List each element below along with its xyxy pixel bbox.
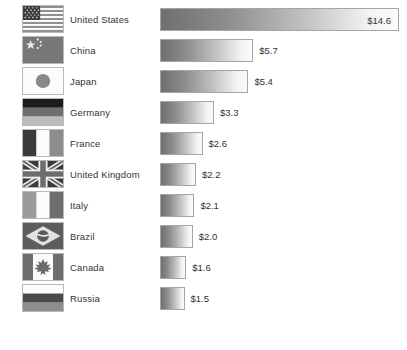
bar-group: $1.6 (160, 256, 211, 279)
gdp-bar-chart: United States$14.6 China$5.7 Japan$5.4 G… (0, 0, 407, 350)
bar-value-label: $5.4 (254, 70, 273, 93)
bar-value-label: $14.6 (367, 9, 391, 32)
bar-value-label: $1.6 (192, 256, 211, 279)
country-label: United Kingdom (70, 159, 140, 190)
bar-group: $2.2 (160, 163, 221, 186)
bar-group: $2.6 (160, 132, 227, 155)
bar-value-label: $2.6 (209, 132, 228, 155)
flag-united-states-icon (22, 5, 64, 33)
bar-group: $1.5 (160, 287, 209, 310)
country-label: Italy (70, 190, 88, 221)
flag-japan-icon (22, 67, 64, 95)
country-label: United States (70, 4, 129, 35)
chart-row: Russia$1.5 (0, 283, 407, 314)
chart-row: Italy$2.1 (0, 190, 407, 221)
bar-group: $5.7 (160, 39, 278, 62)
chart-row: Germany$3.3 (0, 97, 407, 128)
value-bar (160, 287, 185, 310)
flag-germany-icon (22, 98, 64, 126)
flag-france-icon (22, 129, 64, 157)
bar-group: $2.1 (160, 194, 219, 217)
flag-russia-icon (22, 284, 64, 312)
country-label: Germany (70, 97, 110, 128)
bar-group: $3.3 (160, 101, 239, 124)
bar-value-label: $2.1 (200, 194, 219, 217)
flag-canada-icon (22, 253, 64, 281)
flag-italy-icon (22, 191, 64, 219)
flag-united-kingdom-icon (22, 160, 64, 188)
chart-row: Japan$5.4 (0, 66, 407, 97)
country-label: Brazil (70, 221, 95, 252)
value-bar: $14.6 (160, 8, 399, 31)
bar-value-label: $2.2 (202, 163, 221, 186)
value-bar (160, 132, 203, 155)
chart-row: Canada$1.6 (0, 252, 407, 283)
chart-row: France$2.6 (0, 128, 407, 159)
bar-value-label: $2.0 (199, 225, 218, 248)
country-label: Japan (70, 66, 97, 97)
country-label: France (70, 128, 100, 159)
value-bar (160, 194, 194, 217)
flag-brazil-icon (22, 222, 64, 250)
value-bar (160, 101, 214, 124)
flag-china-icon (22, 36, 64, 64)
chart-row: Brazil$2.0 (0, 221, 407, 252)
value-bar (160, 225, 193, 248)
bar-value-label: $1.5 (191, 287, 210, 310)
chart-row: China$5.7 (0, 35, 407, 66)
value-bar (160, 256, 186, 279)
bar-group: $14.6 (160, 8, 399, 31)
bar-value-label: $5.7 (259, 39, 278, 62)
country-label: Canada (70, 252, 104, 283)
value-bar (160, 70, 248, 93)
value-bar (160, 163, 196, 186)
bar-group: $2.0 (160, 225, 217, 248)
country-label: China (70, 35, 96, 66)
chart-row: United States$14.6 (0, 4, 407, 35)
bar-value-label: $3.3 (220, 101, 239, 124)
value-bar (160, 39, 253, 62)
country-label: Russia (70, 283, 100, 314)
bar-group: $5.4 (160, 70, 273, 93)
chart-row: United Kingdom$2.2 (0, 159, 407, 190)
